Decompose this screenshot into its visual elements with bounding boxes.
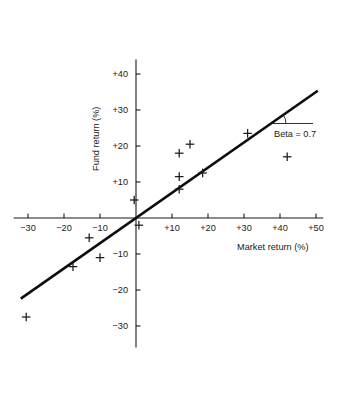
x-tick-label: −10 — [92, 223, 108, 233]
y-tick-label: +40 — [112, 69, 128, 79]
x-tick-label: −30 — [20, 223, 36, 233]
y-tick-label: −30 — [112, 321, 128, 331]
x-tick-label: +40 — [272, 223, 288, 233]
y-tick-label: +10 — [112, 177, 128, 187]
x-tick-label: +20 — [200, 223, 216, 233]
beta-annotation-label: Beta = 0.7 — [274, 129, 316, 139]
y-tick-label: −10 — [112, 249, 128, 259]
x-tick-label: +50 — [308, 223, 324, 233]
ticks-group — [28, 74, 316, 326]
x-tick-label: −20 — [56, 223, 72, 233]
data-point-marker — [85, 234, 94, 243]
angle-arc — [283, 115, 286, 124]
y-tick-label: +30 — [112, 105, 128, 115]
y-tick-label: +20 — [112, 141, 128, 151]
scatter-chart: −30−20−10+10+20+30+40+50−30−20−10+10+20+… — [0, 0, 349, 393]
tick-labels-group: −30−20−10+10+20+30+40+50−30−20−10+10+20+… — [20, 69, 324, 331]
y-axis-title: Fund return (%) — [91, 107, 101, 171]
data-point-marker — [22, 313, 31, 322]
axes-group — [14, 60, 324, 348]
x-tick-label: +30 — [236, 223, 252, 233]
data-point-marker — [130, 196, 139, 205]
regression-line — [21, 91, 318, 299]
data-point-marker — [186, 140, 195, 149]
data-point-marker — [175, 149, 184, 158]
x-tick-label: +10 — [164, 223, 180, 233]
data-point-marker — [96, 253, 105, 262]
data-point-marker — [283, 153, 292, 162]
x-axis-title: Market return (%) — [237, 242, 308, 252]
y-tick-label: −20 — [112, 285, 128, 295]
regression-line-group — [21, 91, 318, 299]
plot-area: −30−20−10+10+20+30+40+50−30−20−10+10+20+… — [0, 0, 349, 393]
data-point-marker — [175, 172, 184, 181]
